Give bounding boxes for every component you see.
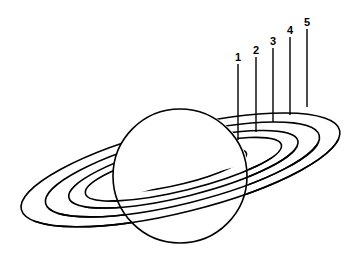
label-5: 5 [304, 16, 310, 28]
label-4: 4 [287, 24, 294, 36]
planet-rings-diagram: 1 2 3 4 5 [0, 0, 354, 255]
label-3: 3 [270, 35, 276, 47]
label-1: 1 [235, 51, 241, 63]
label-2: 2 [253, 44, 259, 56]
